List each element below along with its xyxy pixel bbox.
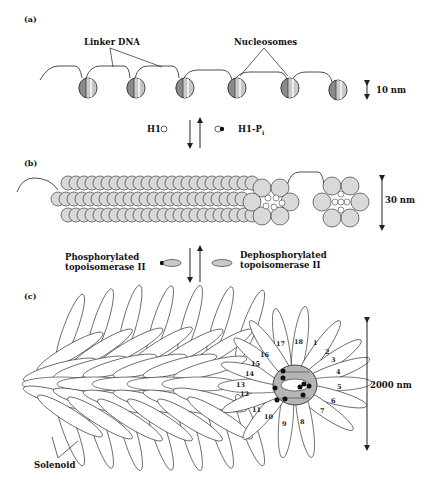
svg-text:7: 7 bbox=[320, 407, 325, 415]
svg-text:3: 3 bbox=[331, 356, 336, 364]
fiber-cross-section bbox=[313, 177, 369, 227]
svg-text:8: 8 bbox=[300, 418, 305, 426]
30nm-fiber bbox=[17, 172, 369, 227]
svg-text:15: 15 bbox=[251, 360, 261, 368]
phosphorylated-topo-icon bbox=[163, 260, 181, 267]
svg-text:14: 14 bbox=[245, 370, 255, 378]
svg-text:5: 5 bbox=[337, 383, 342, 391]
chromatin-diagram: 1 2 3 4 5 6 7 8 9 10 11 12 13 14 15 16 1… bbox=[0, 0, 429, 481]
svg-text:16: 16 bbox=[260, 351, 270, 359]
svg-text:11: 11 bbox=[252, 406, 261, 414]
protein-scaffold bbox=[273, 365, 318, 405]
svg-text:4: 4 bbox=[336, 368, 341, 376]
nucleosome-fiber bbox=[40, 66, 347, 100]
svg-text:2: 2 bbox=[325, 348, 330, 356]
svg-text:9: 9 bbox=[282, 420, 287, 428]
transition-arrows-bc bbox=[160, 248, 232, 282]
svg-text:6: 6 bbox=[331, 397, 336, 405]
svg-text:17: 17 bbox=[276, 340, 285, 348]
h1-icon bbox=[161, 126, 167, 132]
transition-arrows-ab bbox=[161, 120, 224, 148]
svg-text:12: 12 bbox=[240, 390, 249, 398]
svg-text:18: 18 bbox=[294, 338, 304, 346]
svg-text:10: 10 bbox=[264, 413, 274, 421]
dephosphorylated-topo-icon bbox=[212, 260, 232, 267]
svg-text:1: 1 bbox=[313, 339, 318, 347]
svg-text:13: 13 bbox=[236, 381, 246, 389]
